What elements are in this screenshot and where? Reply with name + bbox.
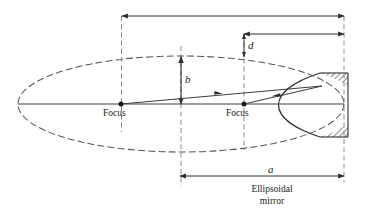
ellipsoidal-mirror-diagram [0,0,372,215]
mirror-caption-line2: mirror [222,196,322,206]
reflected-ray [244,86,322,104]
ellipsoidal-mirror-block [278,73,361,137]
focus-point-right [242,102,247,107]
distance-d-label: d [248,39,254,51]
focus-point-left [119,102,124,107]
semi-minor-axis-label: b [185,73,191,85]
incident-ray-arrowhead [214,91,223,95]
mirror-caption-line1: Ellipsoidal [222,184,322,194]
ray-paths [121,86,322,104]
figure-canvas: Focus Focus b d a Ellipsoidal mirror [0,0,372,215]
focus-left-label: Focus [103,108,126,118]
semi-major-axis-label: a [268,163,274,175]
reflected-ray-arrowhead [272,93,281,96]
focus-right-label: Focus [226,108,249,118]
incident-ray [121,86,322,104]
